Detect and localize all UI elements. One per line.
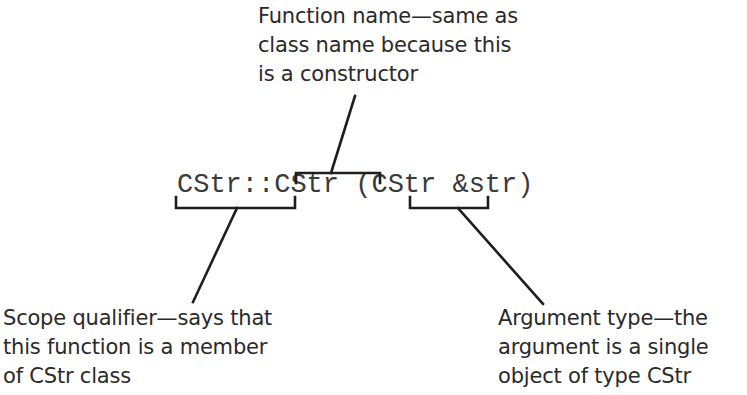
code-function-name: CStr	[274, 170, 339, 200]
annotation-line: of CStr class	[3, 362, 272, 391]
annotation-line: class name because this	[258, 31, 518, 60]
annotation-line: is a constructor	[258, 60, 518, 89]
code-arg-type: CStr	[371, 170, 436, 200]
function-name-annotation: Function name—same as class name because…	[258, 2, 518, 89]
function-name-leader	[331, 96, 355, 173]
argument-type-annotation: Argument type—the argument is a single o…	[498, 304, 709, 391]
scope-qualifier-annotation: Scope qualifier—says that this function …	[3, 304, 272, 391]
code-space	[339, 170, 355, 200]
annotation-line: Function name—same as	[258, 2, 518, 31]
code-scope: CStr::	[177, 170, 274, 200]
code-arg-rest: &str)	[436, 170, 533, 200]
argument-type-leader	[458, 208, 543, 304]
annotation-line: object of type CStr	[498, 362, 709, 391]
annotation-line: argument is a single	[498, 333, 709, 362]
diagram-canvas: Function name—same as class name because…	[0, 0, 747, 395]
annotation-line: Scope qualifier—says that	[3, 304, 272, 333]
code-signature: CStr::CStr (CStr &str)	[177, 170, 533, 200]
code-open-paren: (	[355, 170, 371, 200]
scope-qualifier-leader	[193, 208, 237, 302]
annotation-line: this function is a member	[3, 333, 272, 362]
annotation-line: Argument type—the	[498, 304, 709, 333]
